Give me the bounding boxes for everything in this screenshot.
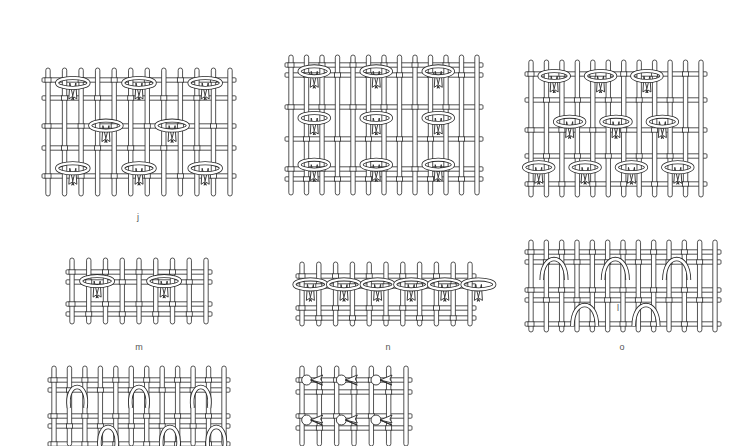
woven-grid-drawing — [48, 366, 230, 446]
panel-m — [66, 258, 212, 324]
woven-grid-drawing — [66, 258, 212, 324]
woven-grid-drawing — [525, 60, 707, 197]
panel-j — [42, 68, 236, 196]
woven-grid-drawing — [42, 68, 236, 196]
woven-grid-drawing — [285, 55, 483, 195]
panel-label-o: o — [619, 342, 624, 352]
panel-label-j: j — [137, 212, 139, 222]
panel-label-n: n — [385, 342, 390, 352]
panel-o — [525, 240, 721, 332]
panel-label-m: m — [135, 342, 143, 352]
panel-k — [285, 55, 483, 195]
panel-p — [48, 366, 230, 446]
panel-q — [296, 366, 412, 446]
woven-grid-drawing — [296, 262, 476, 326]
panel-n — [296, 262, 476, 326]
woven-grid-drawing — [296, 366, 412, 446]
panel-l — [525, 60, 707, 197]
woven-grid-drawing — [525, 240, 721, 332]
